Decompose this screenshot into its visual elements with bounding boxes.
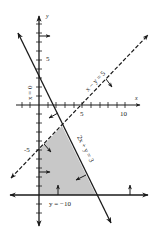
line-label-x-equals-0: x = 0 bbox=[26, 85, 34, 100]
y-axis-label: y bbox=[45, 13, 49, 19]
line-x-minus-y-equals-5: x − y = 5 bbox=[11, 35, 148, 178]
y-tick-5: 5 bbox=[46, 55, 50, 63]
direction-arrow-xy-upper bbox=[106, 79, 112, 87]
direction-arrow-2xy-upper bbox=[49, 113, 58, 118]
x-axis-label: x bbox=[134, 95, 138, 101]
x-axis: x 5 10 bbox=[16, 95, 140, 118]
inequality-graph: x 5 10 y 5 -5 bbox=[0, 0, 163, 231]
line-label-y-neg10: y = −10 bbox=[49, 200, 71, 208]
x-tick-5: 5 bbox=[80, 110, 84, 118]
y-tick-neg5: -5 bbox=[24, 146, 30, 154]
x-tick-10: 10 bbox=[120, 110, 128, 118]
